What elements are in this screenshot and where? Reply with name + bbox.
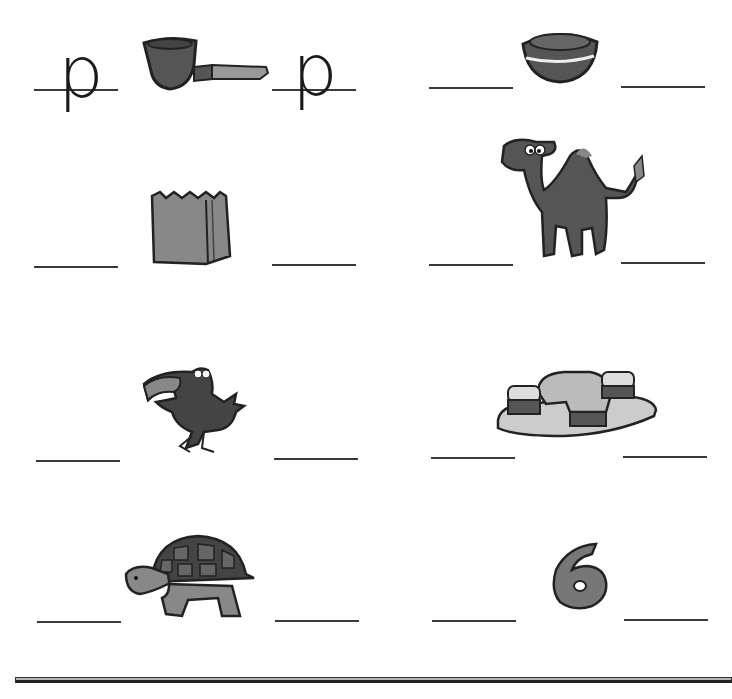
turtle-picture	[122, 534, 256, 624]
blank-line-r4-right-start[interactable]	[432, 620, 516, 622]
paper-bag-picture	[150, 190, 232, 270]
crow-picture	[140, 362, 250, 460]
bottom-divider-bar	[15, 677, 732, 683]
written-letter-end: p	[292, 34, 338, 106]
written-letter-start: p	[58, 36, 104, 108]
blank-line-r4-right-end[interactable]	[624, 619, 708, 621]
blank-line-r4-left-start[interactable]	[37, 621, 121, 623]
blank-line-r4-left-end[interactable]	[275, 620, 359, 622]
phone-picture	[494, 368, 658, 442]
six-picture	[548, 540, 612, 614]
blank-line-r3-right-end[interactable]	[623, 456, 707, 458]
blank-line-r2-right-end[interactable]	[621, 262, 705, 264]
pipe-picture	[140, 35, 272, 99]
blank-line-r1-right-start[interactable]	[429, 87, 513, 89]
blank-line-r3-right-start[interactable]	[431, 457, 515, 459]
camel-picture	[496, 136, 646, 270]
blank-line-r2-left-end[interactable]	[272, 264, 356, 266]
bowl-picture	[520, 28, 600, 88]
blank-line-r2-left-start[interactable]	[34, 266, 118, 268]
blank-line-r3-left-start[interactable]	[36, 460, 120, 462]
blank-line-r3-left-end[interactable]	[274, 458, 358, 460]
blank-line-r1-right-end[interactable]	[621, 86, 705, 88]
